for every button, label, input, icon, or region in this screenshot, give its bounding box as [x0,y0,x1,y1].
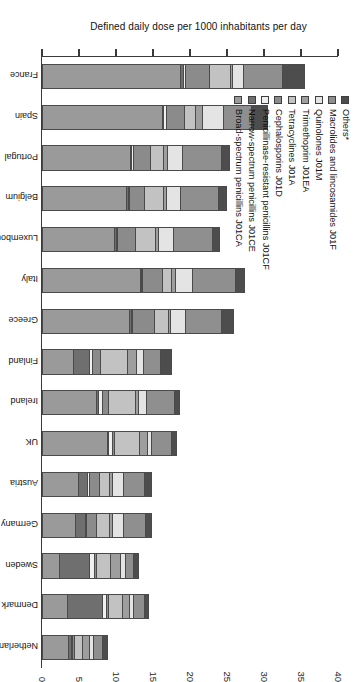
legend-item[interactable]: Trimethoprim J01EA [298,96,311,270]
bar-segment [133,310,155,333]
bar-segment [126,554,135,577]
stacked-bar [42,309,234,334]
bar-segment [159,228,174,251]
stacked-bar [42,594,149,619]
bar-segment [203,106,224,129]
bar-segment [136,391,139,414]
bar-segment [183,146,222,169]
bar-segment [43,595,68,618]
bar-segment [134,595,145,618]
bar-segment [222,146,229,169]
bar-segment [43,514,76,537]
bar-segment [115,228,117,251]
value-tick [300,49,301,56]
value-tick [115,49,116,56]
bar-segment [77,514,86,537]
bar-segment [113,432,115,455]
bar-column [42,553,338,578]
category-label: Austria [10,478,38,488]
legend-label: Others* [341,109,350,140]
bar-segment [43,636,69,659]
legend-label: Narrow-spectrum penicillins J01CE [247,109,256,252]
bar-segment [103,595,107,618]
stacked-bar [42,553,139,578]
legend-label: Trimethoprim J01EA [301,109,310,192]
bar-segment [90,473,100,496]
bar-segment [103,636,107,659]
bar-segment [60,554,90,577]
category-label: Finland [8,356,38,366]
bar-segment [43,432,108,455]
category-label: Germany [1,519,38,529]
bar-segment [129,187,130,210]
bar-segment [90,350,93,373]
bar-segment [231,65,233,88]
category-label: France [10,70,38,80]
legend-item[interactable]: Quinolones J01M [312,96,325,270]
bar-segment [244,65,283,88]
plot-area: Defined daily dose per 1000 inhabitants … [0,0,364,682]
bar-column [42,431,338,456]
value-tick [189,49,190,56]
bar-column [42,513,338,538]
bar-segment [185,106,197,129]
bar-segment [167,106,185,129]
bar-segment [109,432,113,455]
bar-segment [172,432,176,455]
bar-segment [43,391,97,414]
bar-column [42,268,338,293]
bar-segment [140,432,148,455]
bar-segment [145,473,150,496]
bar-segment [108,432,109,455]
bar-segment [155,310,169,333]
stacked-bar [42,431,177,456]
category-label: Italy [21,274,38,284]
bar-segment [145,595,148,618]
bar-segment [171,310,186,333]
bar-segment [90,636,94,659]
chart-figure: Defined daily dose per 1000 inhabitants … [0,0,364,682]
stacked-bar [42,64,305,89]
bar-segment [100,473,110,496]
legend-item[interactable]: Tetracyclines J01A [285,96,298,270]
bar-segment [109,391,135,414]
bar-column [42,309,338,334]
value-axis-title: Defined daily dose per 1000 inhabitants … [49,21,349,32]
legend-item[interactable]: Others* [339,96,352,270]
bar-segment [43,310,130,333]
bar-segment [222,310,232,333]
value-tick [226,49,227,56]
legend-item[interactable]: Penicillinase-resistant penicillins J01C… [258,96,271,270]
stacked-bar [42,227,220,252]
bar-segment [184,65,186,88]
bar-segment [114,514,124,537]
bar-segment [43,228,115,251]
value-tick [78,49,79,56]
stacked-bar [42,145,230,170]
legend-swatch-icon [274,96,282,104]
legend-swatch-icon [288,96,296,104]
bar-segment [236,269,244,292]
stacked-bar [42,186,227,211]
legend-item[interactable]: Broad-spectrum penicillins J01CA [231,96,244,270]
legend-item[interactable]: Narrow-spectrum penicillins J01CE [245,96,258,270]
bar-segment [139,391,148,414]
category-label: Denmark [1,600,38,610]
category-label: Netherlands [0,641,38,651]
legend-item[interactable]: Cephalosporins J01D [272,96,285,270]
category-label: Luxembourg [0,233,38,243]
category-label: Ireland [10,396,38,406]
legend-swatch-icon [301,96,309,104]
bar-segment [186,65,209,88]
bar-segment [95,554,97,577]
category-label: Spain [15,111,38,121]
bar-segment [124,473,145,496]
bar-segment [99,391,103,414]
bar-segment [93,350,102,373]
bar-segment [97,554,111,577]
bar-segment [72,636,73,659]
bar-segment [43,350,74,373]
bar-segment [123,595,130,618]
legend-item[interactable]: Macrolides and lincosamides J01F [325,96,338,270]
bar-segment [174,228,213,251]
